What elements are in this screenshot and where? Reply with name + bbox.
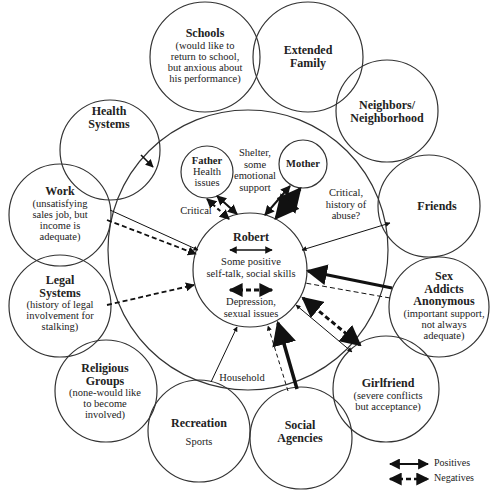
friends-link <box>302 223 390 250</box>
legal-systems-title: Systems <box>26 286 93 299</box>
ecomap-diagram: Schools (would like to return to school,… <box>0 0 498 497</box>
household-text: Household <box>219 372 265 384</box>
robert-negative-line: Depression, <box>224 296 279 308</box>
diagram-canvas <box>0 0 498 497</box>
robert-negative-note: Depression, sexual issues <box>224 296 279 319</box>
saa-note-line: not always <box>403 318 484 329</box>
mother-negative-link <box>276 189 300 218</box>
work-note-line: sales job, but <box>32 208 87 219</box>
mother-label: Mother <box>286 158 320 169</box>
health-systems-label: Health Systems <box>88 105 129 130</box>
social-agencies-title: Agencies <box>277 432 322 445</box>
religious-groups-note-line: to become <box>69 398 141 409</box>
critical-father-text: Critical <box>180 205 212 217</box>
social-agencies-label: Social Agencies <box>277 419 322 444</box>
legal-systems-note-line: (history of legal <box>26 299 93 310</box>
work-note-line: adequate) <box>32 230 87 241</box>
health-systems-title: Systems <box>88 118 129 131</box>
work-note-line: income is <box>32 219 87 230</box>
father-note-line: Health <box>192 166 222 177</box>
schools-label: Schools (would like to return to school,… <box>168 27 243 84</box>
legal-systems-label: Legal Systems (history of legal involvem… <box>26 274 93 332</box>
social-agencies-positive-link <box>278 323 297 389</box>
saa-note-line: adequate) <box>403 329 484 340</box>
extended-family-label: Extended Family <box>284 44 333 69</box>
religious-groups-label: Religious Groups (none-would like to bec… <box>69 362 141 420</box>
robert-positive-note: Some positive self-talk, social skills <box>207 256 296 279</box>
work-note-line: (unsatisfying <box>32 197 87 208</box>
extended-family-title: Family <box>284 57 333 70</box>
schools-note-line: return to school, <box>168 50 243 61</box>
legend-positives: Positives <box>434 457 470 468</box>
schools-note-line: but anxious about <box>168 61 243 72</box>
legal-negative-link <box>107 285 194 305</box>
neighbors-title: Neighbors/ <box>350 99 423 112</box>
work-negative-link <box>107 220 196 254</box>
recreation-note: Sports <box>171 436 227 447</box>
girlfriend-positive-link <box>296 305 352 352</box>
girlfriend-title: Girlfriend <box>353 377 422 390</box>
father-title: Father <box>192 155 222 166</box>
recreation-title: Recreation <box>171 417 227 430</box>
legal-systems-note-line: stalking) <box>26 321 93 332</box>
father-label: Father Health issues <box>192 155 222 188</box>
critical-mother-line: abuse? <box>326 210 367 222</box>
social-agencies-negative-link <box>268 326 288 391</box>
saa-note-line: (important support, <box>403 307 484 318</box>
health-systems-link <box>141 155 153 167</box>
neighbors-label: Neighbors/ Neighborhood <box>350 99 423 124</box>
girlfriend-note-line: (severe conflicts <box>353 389 422 400</box>
social-agencies-title: Social <box>277 419 322 432</box>
robert-positive-line: Some positive <box>207 256 296 268</box>
shelter-note-line: Shelter, <box>234 147 276 159</box>
saa-positive-link <box>308 271 392 288</box>
shelter-note-line: some <box>234 158 276 170</box>
robert-negative-line: sexual issues <box>224 308 279 320</box>
robert-title: Robert <box>233 231 269 244</box>
legal-systems-title: Legal <box>26 274 93 287</box>
schools-title: Schools <box>168 27 243 40</box>
critical-father-note: Critical <box>180 205 212 217</box>
robert-positive-line: self-talk, social skills <box>207 268 296 280</box>
girlfriend-label: Girlfriend (severe conflicts but accepta… <box>353 377 422 412</box>
saa-title: Sex <box>403 270 484 283</box>
health-systems-title: Health <box>88 105 129 118</box>
schools-note-line: his performance) <box>168 72 243 83</box>
critical-mother-note: Critical, history of abuse? <box>326 187 367 222</box>
mother-title: Mother <box>286 158 320 169</box>
work-title: Work <box>32 185 87 198</box>
legal-systems-note-line: involvement for <box>26 310 93 321</box>
neighbors-title: Neighborhood <box>350 112 423 125</box>
household-label: Household <box>219 372 265 384</box>
shelter-note-line: emotional <box>234 170 276 182</box>
extended-family-title: Extended <box>284 44 333 57</box>
robert-name: Robert <box>233 231 269 244</box>
girlfriend-negative-link <box>303 298 360 345</box>
shelter-note: Shelter, some emotional support <box>234 147 276 193</box>
religious-groups-note-line: (none-would like <box>69 387 141 398</box>
girlfriend-note-line: but acceptance) <box>353 400 422 411</box>
recreation-label: Recreation Sports <box>171 417 227 447</box>
religious-groups-title: Religious <box>69 362 141 375</box>
friends-title: Friends <box>417 200 456 213</box>
religious-groups-note-line: involved) <box>69 409 141 420</box>
schools-note-line: (would like to <box>168 39 243 50</box>
religious-groups-title: Groups <box>69 374 141 387</box>
critical-mother-line: history of <box>326 198 367 210</box>
critical-mother-line: Critical, <box>326 187 367 199</box>
sex-addicts-anonymous-label: Sex Addicts Anonymous (important support… <box>403 270 484 341</box>
shelter-note-line: support <box>234 182 276 194</box>
friends-label: Friends <box>417 200 456 213</box>
legend-negatives: Negatives <box>434 472 474 483</box>
saa-title: Anonymous <box>403 295 484 308</box>
work-label: Work (unsatisfying sales job, but income… <box>32 185 87 242</box>
father-note-line: issues <box>192 178 222 189</box>
